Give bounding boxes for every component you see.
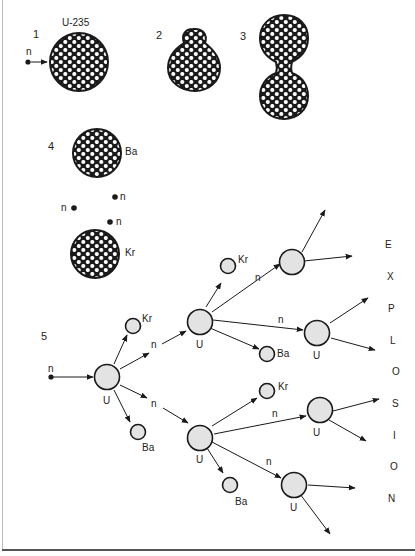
- krypton-nucleus-icon: [260, 384, 275, 399]
- neutron-label: n: [272, 409, 278, 419]
- uranium-label: U: [196, 340, 203, 350]
- neutron-label: n: [116, 217, 122, 227]
- step-number-1: 1: [33, 29, 39, 40]
- uranium-label: U: [103, 396, 110, 406]
- uranium-label: U: [196, 455, 203, 465]
- neutron-label: n: [26, 47, 32, 57]
- krypton-label: Kr: [142, 314, 152, 324]
- krypton-label: Kr: [125, 248, 135, 258]
- released-neutron-icon: [71, 205, 77, 211]
- uranium-nucleus-icon: [95, 365, 120, 390]
- uranium-label: U: [290, 503, 297, 513]
- barium-label: Ba: [125, 147, 137, 157]
- step-number-5: 5: [41, 331, 47, 342]
- step-number-2: 2: [156, 30, 162, 41]
- explosion-letter: N: [388, 494, 395, 504]
- step-number-4: 4: [48, 141, 54, 152]
- dumbbell-nucleus-icon: [260, 15, 308, 119]
- explosion-letter: O: [390, 462, 398, 472]
- neutron-label: n: [120, 192, 126, 202]
- barium-nucleus-icon: [131, 425, 146, 440]
- explosion-letter: L: [390, 336, 396, 346]
- krypton-fragment-icon: [71, 230, 119, 278]
- krypton-label: Kr: [238, 255, 248, 265]
- uranium-label: U: [313, 428, 320, 438]
- barium-label: Ba: [277, 349, 289, 359]
- incoming-neutron-label: n: [48, 364, 54, 374]
- diagram-graphics: [0, 0, 415, 556]
- step-number-3: 3: [240, 31, 246, 42]
- neutron-label: n: [255, 273, 261, 283]
- explosion-letter: S: [392, 399, 399, 409]
- neutron-label: n: [266, 457, 272, 467]
- explosion-letter: P: [388, 304, 395, 314]
- barium-label: Ba: [235, 497, 247, 507]
- uranium-nucleus-icon: [308, 398, 333, 423]
- chain-nuclei: [95, 250, 333, 498]
- fission-diagram: 1 2 3 4 5 U-235 n Ba Kr n n n n U Kr Ba …: [0, 0, 415, 556]
- krypton-nucleus-icon: [221, 259, 236, 274]
- deformed-nucleus-icon: [168, 29, 220, 91]
- barium-nucleus-icon: [260, 347, 275, 362]
- explosion-letter: E: [385, 240, 392, 250]
- barium-label: Ba: [142, 443, 154, 453]
- uranium-nucleus-icon: [305, 321, 330, 346]
- krypton-nucleus-icon: [126, 319, 141, 334]
- uranium-nucleus-icon: [282, 473, 307, 498]
- neutron-label: n: [151, 340, 157, 350]
- explosion-letter: O: [392, 367, 400, 377]
- barium-fragment-icon: [73, 129, 121, 177]
- uranium-nucleus-icon: [188, 426, 213, 451]
- incoming-neutron-icon: [48, 374, 53, 379]
- krypton-label: Kr: [278, 382, 288, 392]
- released-neutron-icon: [112, 194, 118, 200]
- step1-neutron-icon: [25, 59, 47, 64]
- explosion-letter: X: [387, 272, 394, 282]
- explosion-letter: I: [393, 431, 396, 441]
- neutron-label: n: [61, 203, 67, 213]
- u235-label: U-235: [62, 18, 89, 28]
- u235-nucleus-icon: [50, 33, 108, 91]
- neutron-label: n: [151, 399, 157, 409]
- uranium-nucleus-icon: [188, 310, 213, 335]
- uranium-nucleus-icon: [280, 250, 305, 275]
- uranium-label: U: [313, 351, 320, 361]
- barium-nucleus-icon: [223, 478, 238, 493]
- neutron-label: n: [278, 315, 284, 325]
- released-neutron-icon: [107, 219, 113, 225]
